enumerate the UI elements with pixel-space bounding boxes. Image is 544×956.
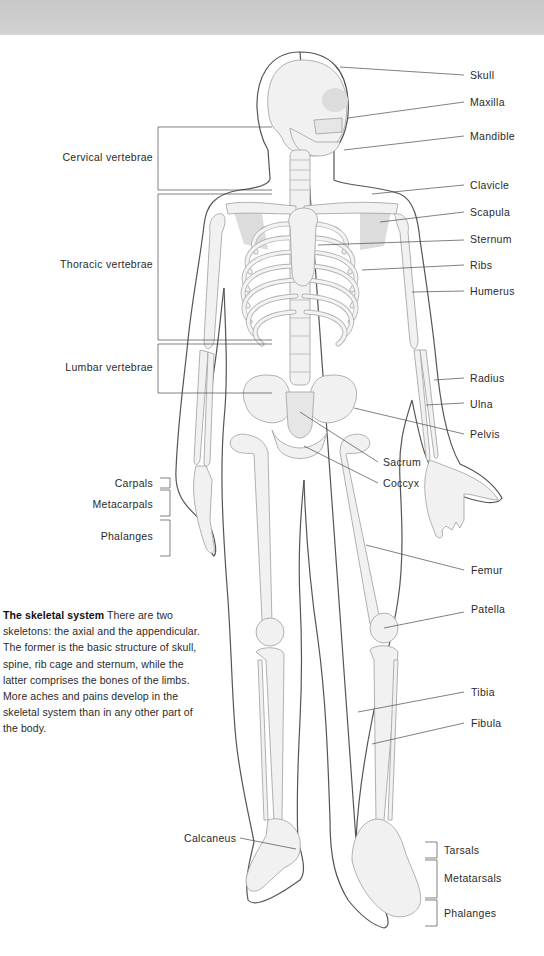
label-phalanges-foot: Phalanges [444, 907, 496, 919]
label-clavicle: Clavicle [470, 179, 509, 191]
label-calcaneus: Calcaneus [184, 832, 236, 844]
figure-caption: The skeletal system There are two skelet… [3, 607, 203, 737]
label-maxilla: Maxilla [470, 96, 505, 108]
label-femur: Femur [471, 564, 503, 576]
label-tarsals: Tarsals [444, 844, 479, 856]
label-tibia: Tibia [471, 686, 495, 698]
label-sternum: Sternum [470, 233, 512, 245]
label-ulna: Ulna [470, 398, 493, 410]
skull [268, 60, 348, 156]
label-lumbar-vertebrae: Lumbar vertebrae [65, 361, 153, 373]
label-cervical-vertebrae: Cervical vertebrae [62, 151, 153, 163]
hand-brackets [160, 478, 170, 556]
label-coccyx: Coccyx [383, 477, 419, 489]
label-scapula: Scapula [470, 206, 510, 218]
label-pelvis: Pelvis [470, 428, 500, 440]
foot-brackets [425, 842, 437, 926]
label-sacrum: Sacrum [383, 456, 421, 468]
label-skull: Skull [470, 69, 494, 81]
left-leg [230, 434, 300, 891]
label-mandible: Mandible [470, 130, 515, 142]
skeleton-illustration: .bone { fill: #f1f1f1; stroke: #a8a8a8; … [0, 0, 544, 956]
right-leg [340, 434, 421, 917]
caption-title: The skeletal system [3, 609, 104, 621]
label-carpals: Carpals [115, 477, 153, 489]
label-phalanges-hand: Phalanges [101, 530, 153, 542]
label-metacarpals: Metacarpals [93, 498, 154, 510]
label-radius: Radius [470, 372, 504, 384]
label-thoracic-vertebrae: Thoracic vertebrae [60, 258, 153, 270]
label-metatarsals: Metatarsals [444, 872, 502, 884]
label-ribs: Ribs [470, 259, 492, 271]
caption-body: There are two skeletons: the axial and t… [3, 609, 200, 734]
label-fibula: Fibula [471, 717, 501, 729]
label-humerus: Humerus [470, 285, 515, 297]
label-patella: Patella [471, 603, 505, 615]
